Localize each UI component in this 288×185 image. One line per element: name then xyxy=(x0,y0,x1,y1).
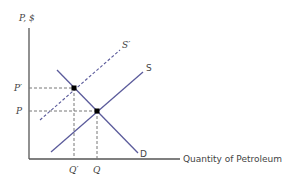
y-axis-label: P, $ xyxy=(18,13,35,23)
price-original-label: P xyxy=(15,106,23,116)
equilibrium-point-new xyxy=(72,86,77,91)
equilibrium-point-original xyxy=(95,109,100,114)
price-new-label: P′ xyxy=(13,83,22,93)
supply-demand-diagram: P, $ Quantity of Petroleum S′ S D P′ P Q… xyxy=(0,0,288,185)
supply-shifted-curve xyxy=(40,50,120,120)
demand-label: D xyxy=(140,149,147,159)
quantity-new-label: Q′ xyxy=(69,165,78,175)
quantity-original-label: Q xyxy=(93,165,101,175)
x-axis-label: Quantity of Petroleum xyxy=(183,154,282,164)
supply-shifted-label: S′ xyxy=(122,40,130,50)
supply-label: S xyxy=(146,63,152,73)
